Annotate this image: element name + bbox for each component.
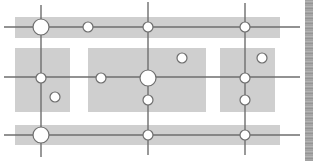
node-large-icon (33, 127, 49, 143)
node-small-icon (240, 95, 250, 105)
node-small-icon (143, 95, 153, 105)
node-small-icon (143, 22, 153, 32)
node-small-icon (240, 22, 250, 32)
node-small-icon (50, 92, 60, 102)
scanned-edge-strip (305, 0, 313, 161)
node-small-icon (257, 53, 267, 63)
node-small-icon (96, 73, 106, 83)
grid-diagram (0, 0, 313, 161)
node-small-icon (177, 53, 187, 63)
node-small-icon (240, 73, 250, 83)
node-small-icon (143, 130, 153, 140)
node-small-icon (83, 22, 93, 32)
node-small-icon (240, 130, 250, 140)
node-large-icon (140, 70, 156, 86)
node-small-icon (36, 73, 46, 83)
node-large-icon (33, 19, 49, 35)
